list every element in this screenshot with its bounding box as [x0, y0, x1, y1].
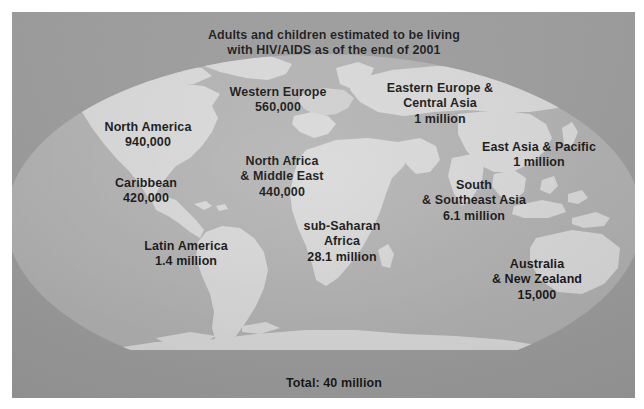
region-name-line-2: & Middle East: [240, 169, 323, 184]
page-title: Adults and children estimated to be livi…: [208, 28, 460, 59]
map-panel: Adults and children estimated to be livi…: [12, 12, 635, 398]
region-label-eastern-europe-central-asia: Eastern Europe & Central Asia 1 million: [387, 81, 494, 127]
region-name-line-2: Africa: [304, 234, 381, 249]
region-name-line-2: & New Zealand: [492, 272, 582, 287]
region-name: Western Europe: [229, 85, 326, 100]
region-value: 940,000: [105, 135, 192, 150]
region-label-south-southeast-asia: South & Southeast Asia 6.1 million: [422, 178, 526, 224]
region-name: East Asia & Pacific: [482, 140, 596, 155]
region-value: 1 million: [387, 112, 494, 127]
region-value: 1.4 million: [144, 254, 228, 269]
region-label-latin-america: Latin America 1.4 million: [144, 239, 228, 270]
region-label-western-europe: Western Europe 560,000: [229, 85, 326, 116]
region-name-line-1: Australia: [492, 257, 582, 272]
region-value: 420,000: [115, 191, 177, 206]
map-screenshot: Adults and children estimated to be livi…: [0, 0, 644, 409]
region-value: 28.1 million: [304, 250, 381, 265]
region-label-north-america: North America 940,000: [105, 120, 192, 151]
region-name: Caribbean: [115, 176, 177, 191]
region-value: 15,000: [492, 288, 582, 303]
region-name: Latin America: [144, 239, 228, 254]
region-name-line-2: & Southeast Asia: [422, 193, 526, 208]
region-name-line-1: North Africa: [240, 154, 323, 169]
region-label-caribbean: Caribbean 420,000: [115, 176, 177, 207]
region-label-sub-saharan-africa: sub-Saharan Africa 28.1 million: [304, 219, 381, 265]
region-value: 6.1 million: [422, 209, 526, 224]
region-name-line-1: Eastern Europe &: [387, 81, 494, 96]
region-label-australia-new-zealand: Australia & New Zealand 15,000: [492, 257, 582, 303]
region-name-line-2: Central Asia: [387, 96, 494, 111]
region-label-east-asia-pacific: East Asia & Pacific 1 million: [482, 140, 596, 171]
region-name-line-1: sub-Saharan: [304, 219, 381, 234]
title-line-2: with HIV/AIDS as of the end of 2001: [227, 43, 440, 57]
region-name-line-1: South: [422, 178, 526, 193]
total-label: Total: 40 million: [286, 376, 382, 391]
region-name: North America: [105, 120, 192, 135]
title-line-1: Adults and children estimated to be livi…: [208, 28, 460, 42]
region-label-north-africa-middle-east: North Africa & Middle East 440,000: [240, 154, 323, 200]
region-value: 560,000: [229, 100, 326, 115]
region-value: 1 million: [482, 155, 596, 170]
region-value: 440,000: [240, 185, 323, 200]
